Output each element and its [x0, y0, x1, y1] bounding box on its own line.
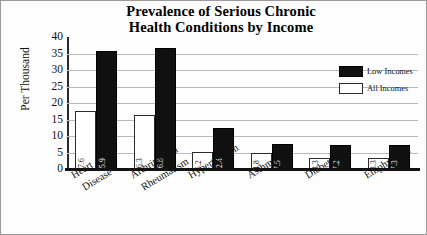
x-category-label: HeartDisease: [69, 171, 113, 194]
bar-group: 3.37.2: [301, 37, 360, 169]
y-tick-label-15: 15: [37, 114, 63, 126]
bar-group: 17.635.9: [67, 37, 126, 169]
y-tick-label-5: 5: [37, 147, 63, 159]
chart-title: Prevalence of Serious Chronic Health Con…: [71, 4, 371, 35]
chart-legend: Low IncomesAll Incomes: [339, 65, 423, 99]
white-outlined-swatch: [339, 83, 363, 94]
legend-label: All Incomes: [367, 84, 408, 93]
x-category-label: Asthma: [245, 171, 278, 183]
chart-figure: Prevalence of Serious Chronic Health Con…: [0, 0, 427, 235]
bar-group: 4.87.5: [243, 37, 302, 169]
y-tick-label-20: 20: [37, 97, 63, 109]
plot-area: 17.635.916.336.85.212.44.87.53.37.23.37.…: [67, 37, 418, 169]
y-axis-tick-labels: 4035302520151050: [35, 37, 63, 169]
bar-series-container: 17.635.916.336.85.212.44.87.53.37.23.37.…: [67, 37, 418, 169]
black-filled-swatch: [339, 66, 363, 77]
x-category-label: Arthritis andRheumatism: [128, 171, 192, 194]
y-tick-label-10: 10: [37, 130, 63, 142]
x-axis-category-labels: HeartDiseaseArthritis andRheumatismHyper…: [1, 171, 427, 235]
legend-item: Low Incomes: [339, 65, 423, 78]
y-tick-label-35: 35: [37, 48, 63, 60]
chart-title-line-2: Health Conditions by Income: [71, 20, 371, 36]
y-tick-label-40: 40: [37, 31, 63, 43]
x-category-label: Emphysema: [362, 171, 414, 183]
chart-title-line-1: Prevalence of Serious Chronic: [126, 3, 316, 19]
legend-item: All Incomes: [339, 82, 423, 95]
x-category-label: Hypertension: [186, 171, 243, 183]
y-tick-label-25: 25: [37, 81, 63, 93]
y-axis-title: Per Thousand: [19, 19, 31, 139]
legend-label: Low Incomes: [367, 67, 413, 76]
x-category-label: Diabetes: [303, 171, 340, 183]
y-tick-label-30: 30: [37, 64, 63, 76]
